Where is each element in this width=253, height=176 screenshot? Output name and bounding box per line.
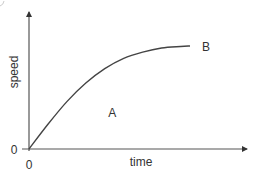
annotation-b: B [202, 40, 210, 54]
y-origin-label: 0 [11, 143, 18, 157]
annotation-a: A [108, 106, 116, 120]
x-axis-label: time [130, 155, 153, 169]
speed-time-graph: speed time 0 0 A B [0, 0, 253, 176]
clipped-arc-fragment [0, 1, 4, 6]
y-axis-label: speed [7, 56, 21, 89]
x-origin-label: 0 [26, 158, 33, 172]
speed-curve [29, 46, 190, 149]
